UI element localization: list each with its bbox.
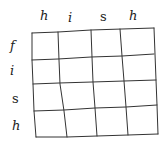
grid-lines <box>0 0 168 145</box>
